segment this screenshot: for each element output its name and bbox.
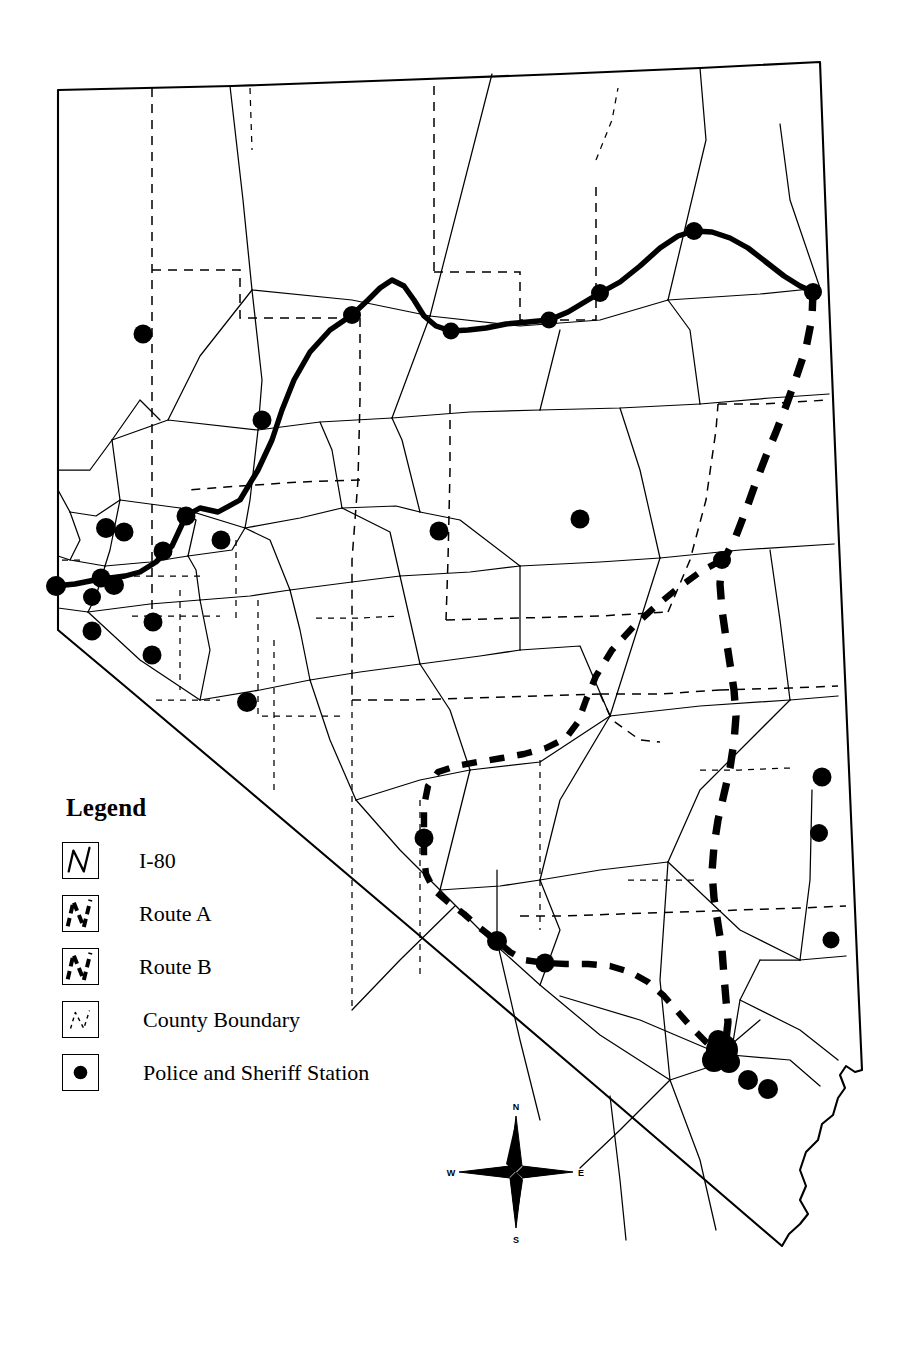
fine-dashed-zigzag-line-icon (62, 1001, 99, 1038)
station-dot (810, 824, 828, 842)
station-dot (708, 1030, 728, 1050)
station-dot (738, 1070, 758, 1090)
compass-label-south: S (513, 1235, 519, 1245)
station-dot (144, 613, 163, 632)
legend-item-label: I-80 (139, 850, 176, 872)
station-dot (430, 522, 449, 541)
station-dot (536, 954, 555, 973)
station-dot (685, 222, 703, 240)
station-dot (343, 306, 361, 324)
legend-item-police-station: Police and Sheriff Station (62, 1054, 462, 1091)
station-dot (823, 932, 840, 949)
station-dot (46, 576, 66, 596)
station-dot (83, 622, 102, 641)
legend-item-label: Route A (139, 903, 212, 925)
station-dot (237, 692, 257, 712)
station-dot (487, 931, 507, 951)
legend-item-county-boundary: County Boundary (62, 1001, 462, 1038)
compass-label-north: N (513, 1102, 520, 1112)
station-dot (104, 575, 124, 595)
station-dot (541, 312, 558, 329)
station-dot (96, 518, 116, 538)
station-dot (571, 510, 590, 529)
solid-zigzag-line-icon (62, 842, 99, 879)
station-dot (813, 768, 832, 787)
station-dot (154, 542, 173, 561)
station-dot (83, 588, 101, 606)
station-dot (443, 323, 460, 340)
legend-item-i80: I-80 (62, 842, 462, 879)
station-dot (143, 646, 162, 665)
dashed-zigzag-line-icon (62, 948, 99, 985)
compass-rose: N S E W (443, 1096, 589, 1248)
station-dot (212, 531, 231, 550)
station-dot (115, 523, 134, 542)
station-dot (253, 411, 272, 430)
station-dot (177, 507, 196, 526)
station-dot (713, 551, 731, 569)
legend-title: Legend (66, 795, 462, 820)
station-dot (591, 284, 609, 302)
filled-circle-icon (62, 1054, 99, 1091)
legend-item-label: Police and Sheriff Station (143, 1062, 369, 1084)
station-dot (134, 325, 153, 344)
station-dot (758, 1079, 778, 1099)
station-dot (718, 1051, 740, 1073)
station-dot (804, 283, 822, 301)
legend-item-label: County Boundary (143, 1009, 300, 1031)
map-canvas: Legend I-80 Route A Route (0, 0, 897, 1346)
legend-item-route-b: Route B (62, 948, 462, 985)
legend-item-route-a: Route A (62, 895, 462, 932)
dashed-zigzag-line-icon (62, 895, 99, 932)
compass-label-east: E (578, 1168, 584, 1178)
compass-label-west: W (447, 1168, 456, 1178)
legend: Legend I-80 Route A Route (62, 795, 462, 1107)
legend-item-label: Route B (139, 956, 212, 978)
